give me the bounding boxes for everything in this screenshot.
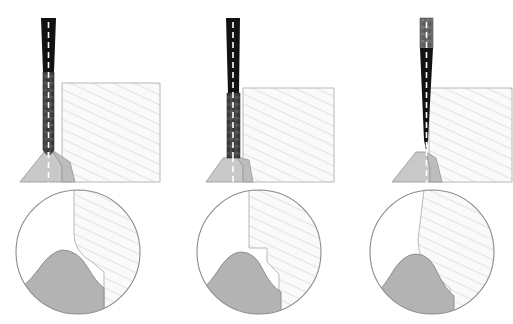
detail-circle <box>14 190 150 320</box>
panel-2-graphic <box>171 0 342 324</box>
panel-3 <box>342 0 513 324</box>
cutting-tool <box>41 18 56 155</box>
panel-3-graphic <box>342 0 513 324</box>
workpiece-block <box>62 83 160 182</box>
workpiece-block <box>429 88 512 182</box>
panel-1-graphic <box>0 0 171 324</box>
workpiece-block <box>243 88 334 182</box>
cutting-tool <box>226 18 240 158</box>
panel-2 <box>171 0 342 324</box>
detail-circle <box>366 190 502 320</box>
exit-burr <box>206 157 253 182</box>
detail-circle <box>193 190 331 320</box>
panel-1 <box>0 0 171 324</box>
